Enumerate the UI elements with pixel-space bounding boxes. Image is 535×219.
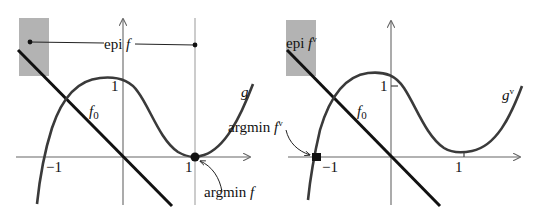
right-panel: epi fv gv f0 argmin fv 1 1 −1 xyxy=(228,20,522,206)
epi-leader-line-right xyxy=(135,44,195,45)
argmin-label: argmin f xyxy=(204,184,256,200)
g-v-label: gv xyxy=(502,86,515,103)
f0-label: f0 xyxy=(357,103,367,121)
f0-label: f0 xyxy=(89,103,99,121)
tick-label-x1: 1 xyxy=(185,159,193,175)
argmin-point xyxy=(312,153,321,161)
tick-label-x1: 1 xyxy=(455,159,463,175)
tick-label-y1: 1 xyxy=(111,78,119,94)
argmin-arrow xyxy=(286,130,310,155)
epi-point-right xyxy=(193,43,198,48)
figure: epi f g f0 argmin f 1 1 −1 epi fv gv f0 … xyxy=(0,0,535,219)
tick-label-xm1: −1 xyxy=(46,159,62,175)
left-panel: epi f g f0 argmin f 1 1 −1 xyxy=(16,18,256,206)
tick-label-y1: 1 xyxy=(380,78,388,94)
tick-label-xm1: −1 xyxy=(322,159,338,175)
argmin-label: argmin fv xyxy=(228,118,283,135)
f0-line xyxy=(18,50,172,206)
epi-point-left xyxy=(28,40,33,45)
g-label: g xyxy=(241,84,249,100)
epi-label: epi f xyxy=(104,36,132,52)
